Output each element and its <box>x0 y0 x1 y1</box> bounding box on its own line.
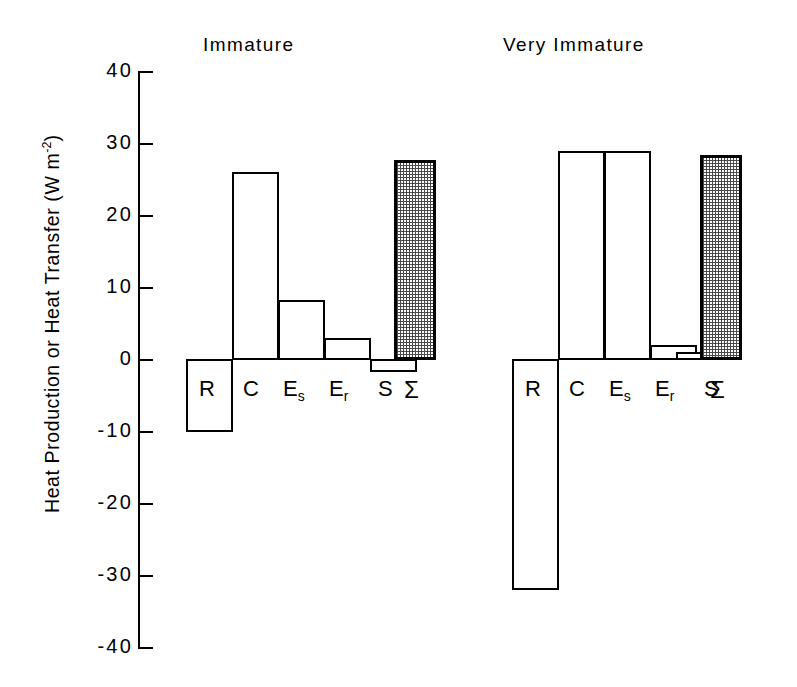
cat-label-very-immature-R: R <box>525 378 541 400</box>
group-title-immature: Immature <box>203 34 294 56</box>
y-axis-tick-40 <box>140 71 153 73</box>
cat-label-immature-S: S <box>378 378 393 400</box>
bar-immature-sigma <box>394 160 436 360</box>
y-axis-label-20: 20 <box>75 203 133 226</box>
y-axis-tick--40 <box>140 647 153 649</box>
y-axis-label-0: 0 <box>75 347 133 370</box>
cat-label-immature-Es: Es <box>283 378 305 403</box>
y-axis-label-40: 40 <box>75 59 133 82</box>
cat-label-very-immature-Es-E: E <box>609 376 624 401</box>
y-axis-title-exponent: -2 <box>40 142 54 153</box>
y-axis-tick--20 <box>140 503 153 505</box>
cat-label-very-immature-C: C <box>569 378 585 400</box>
y-axis-tick-20 <box>140 215 153 217</box>
group-title-very-immature: Very Immature <box>503 34 645 56</box>
cat-label-immature-Es-E: E <box>283 376 298 401</box>
y-axis-tick-30 <box>140 143 153 145</box>
cat-label-immature-Er: Er <box>329 378 348 403</box>
y-axis-label-30: 30 <box>75 131 133 154</box>
bar-very-immature-sigma <box>700 155 742 360</box>
cat-label-very-immature-Er-E: E <box>655 376 670 401</box>
cat-label-very-immature-Er: Er <box>655 378 674 403</box>
cat-label-immature-C: C <box>243 378 259 400</box>
bar-very-immature-C <box>558 151 605 360</box>
y-axis-title-close: ) <box>41 134 63 141</box>
cat-label-immature-Er-E: E <box>329 376 344 401</box>
bar-immature-S <box>370 359 417 372</box>
cat-label-very-immature-Es-sub: s <box>624 388 631 404</box>
y-axis-tick-10 <box>140 287 153 289</box>
chart-canvas: Heat Production or Heat Transfer (W m-2)… <box>0 0 797 687</box>
bar-immature-C <box>232 172 279 360</box>
cat-label-immature-Es-sub: s <box>298 388 305 404</box>
cat-label-very-immature-Es: Es <box>609 378 631 403</box>
y-axis-label-10: 10 <box>75 275 133 298</box>
cat-label-immature-R: R <box>199 378 215 400</box>
y-axis-tick--10 <box>140 431 153 433</box>
y-axis-tick--30 <box>140 575 153 577</box>
cat-label-very-immature-Er-sub: r <box>670 388 675 404</box>
bar-immature-Er <box>324 338 371 360</box>
y-axis-label--30: -30 <box>66 563 133 586</box>
y-axis-label--40: -40 <box>66 635 133 658</box>
y-axis-label--20: -20 <box>66 491 133 514</box>
bar-immature-Es <box>278 300 325 360</box>
cat-label-very-immature-sigma: Σ <box>710 378 725 402</box>
y-axis-label--10: -10 <box>66 419 133 442</box>
cat-label-immature-Er-sub: r <box>344 388 349 404</box>
cat-label-immature-sigma: Σ <box>404 378 419 402</box>
y-axis-tick-0 <box>140 359 153 361</box>
y-axis-title-text: Heat Production or Heat Transfer (W m <box>41 153 63 513</box>
y-axis-title: Heat Production or Heat Transfer (W m-2) <box>40 44 64 604</box>
bar-very-immature-Es <box>604 151 651 360</box>
